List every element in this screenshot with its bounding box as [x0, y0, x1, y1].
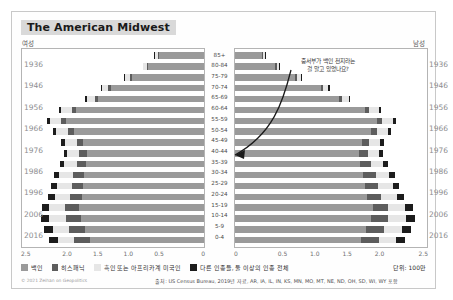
age-group-label: 30-34 — [205, 169, 234, 175]
bar-segment-black — [56, 128, 68, 134]
bar-segment-black — [342, 96, 349, 102]
bar-segment-black — [368, 150, 379, 156]
legend-item: 백인 — [21, 263, 43, 272]
x-tick-label: 2.0 — [52, 250, 83, 260]
x-tick-label: 0 — [234, 250, 266, 260]
age-group-label: 65-69 — [205, 94, 234, 100]
x-axis-ticks-male: 00.51.01.52.02.5 — [234, 250, 428, 260]
bar-segment-white — [235, 52, 262, 58]
legend-swatch-hispanic — [52, 264, 59, 271]
bar-segment-other — [406, 215, 414, 221]
bar-segment-black — [67, 150, 79, 156]
bar-segment-hisp — [373, 204, 388, 210]
source-text: 출처: US Census Bureau, 2019년 자료, AR, IA, … — [155, 277, 398, 284]
bar-segment-white — [159, 52, 204, 58]
birth-year-label: 1936 — [429, 60, 448, 69]
bar-segment-hisp — [65, 204, 79, 210]
birth-year-label: 1996 — [24, 188, 43, 197]
pyramid-row — [235, 149, 427, 157]
x-tick-label: 1.0 — [113, 250, 144, 260]
annotation-line-1: 중서부가 백인 천지라는 — [301, 58, 355, 64]
bar-segment-hisp — [360, 161, 371, 167]
bar-segment-hisp — [359, 150, 368, 156]
annotation-line-2: 걸 알고 있었나요? — [307, 66, 349, 72]
age-group-label: 60-64 — [205, 105, 234, 111]
x-axis-ticks-female: 2.52.01.51.00.50 — [21, 250, 205, 260]
bar-segment-white — [235, 74, 295, 80]
pyramid-bar-female — [85, 96, 204, 102]
age-group-label: 85+ — [205, 52, 234, 58]
birth-year-label: 1996 — [429, 188, 448, 197]
bar-segment-black — [49, 204, 65, 210]
bar-segment-other — [379, 107, 381, 113]
page-title: The American Midwest — [27, 21, 170, 34]
bar-segment-hisp — [362, 139, 370, 145]
bar-segment-white — [235, 150, 359, 156]
pyramid-panel-male — [234, 48, 428, 248]
birth-year-label: 1956 — [24, 103, 43, 112]
age-group-label: 25-29 — [205, 180, 234, 186]
legend-swatch-other — [190, 264, 197, 271]
pyramid-bar-male — [235, 204, 413, 210]
bar-segment-white — [235, 107, 365, 113]
x-tick-label: 1.5 — [331, 250, 363, 260]
bar-segment-other — [405, 204, 413, 210]
bar-segment-black — [59, 172, 73, 178]
bar-segment-black — [87, 96, 95, 102]
bar-segment-white — [76, 107, 204, 113]
age-group-label: 55-59 — [205, 116, 234, 122]
pyramid-bar-female — [44, 226, 204, 232]
bar-segment-hisp — [74, 237, 90, 243]
pyramid-row — [235, 117, 427, 125]
age-group-label: 35-39 — [205, 159, 234, 165]
x-tick-label: 1.0 — [299, 250, 331, 260]
bar-segment-hisp — [66, 215, 81, 221]
x-tick-label: 0 — [174, 250, 205, 260]
pyramid-bar-male — [235, 161, 388, 167]
bar-segment-white — [74, 128, 204, 134]
pyramid-row — [235, 236, 427, 244]
pyramid-bar-female — [59, 107, 204, 113]
birth-year-axis: 193619461956196619761986199620062016 — [21, 48, 51, 248]
bar-segment-black — [61, 107, 71, 113]
bar-segment-white — [148, 63, 204, 69]
bar-segment-other — [402, 226, 411, 232]
bar-segment-hisp — [69, 226, 85, 232]
age-group-label: 15-19 — [205, 202, 234, 208]
chart-figure: The American Midwest 여성 남성 1936194619561… — [11, 11, 436, 289]
age-group-label: 40-44 — [205, 148, 234, 154]
age-group-label: 10-14 — [205, 212, 234, 218]
bar-segment-black — [384, 226, 402, 232]
pyramid-bar-male — [235, 139, 384, 145]
pyramid-bar-male — [235, 128, 391, 134]
chart-legend: 백인 히스패닉 흑인 또는 아프리카계 미국인 다른 인종들, 둘 이상의 인종… — [21, 262, 426, 273]
bar-segment-hisp — [366, 226, 384, 232]
pyramid-row — [235, 214, 427, 222]
bar-segment-hisp — [361, 237, 379, 243]
bar-segment-black — [376, 172, 390, 178]
pyramid-bar-female — [54, 172, 204, 178]
legend-label-black: 흑인 또는 아프리카계 미국인 — [104, 263, 182, 272]
bar-segment-other — [380, 139, 384, 145]
bar-segment-hisp — [365, 183, 378, 189]
pyramid-row — [235, 138, 427, 146]
bar-segment-black — [382, 118, 393, 124]
birth-year-label: 1986 — [24, 167, 43, 176]
chart-title-band: The American Midwest — [21, 20, 176, 35]
birth-year-label: 1946 — [429, 81, 448, 90]
pyramid-bar-female — [100, 85, 204, 91]
pyramid-row — [235, 84, 427, 92]
x-tick-label: 0.5 — [144, 250, 175, 260]
bar-segment-white — [235, 204, 373, 210]
pyramid-row — [235, 171, 427, 179]
age-group-label: 50-54 — [205, 127, 234, 133]
legend-item: 다른 인종들, 둘 이상의 인종 전체 — [190, 263, 289, 272]
bar-segment-other — [379, 150, 383, 156]
pyramid-bar-male — [235, 63, 280, 69]
legend-item: 흑인 또는 아프리카계 미국인 — [94, 263, 181, 272]
pyramid-bar-female — [48, 194, 204, 200]
bar-segment-other — [301, 74, 302, 80]
bar-segment-black — [57, 183, 71, 189]
pyramid-bar-male — [235, 226, 411, 232]
legend-label-other: 다른 인종들, 둘 이상의 인종 전체 — [200, 263, 289, 272]
